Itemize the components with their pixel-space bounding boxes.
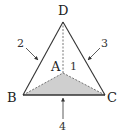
label-1: 1 xyxy=(70,60,77,73)
label-4: 4 xyxy=(59,120,66,133)
arrow-3-icon xyxy=(88,48,100,60)
label-3: 3 xyxy=(101,37,108,50)
arrow-2-icon xyxy=(26,48,38,60)
label-2: 2 xyxy=(17,37,24,50)
vertex-label-d: D xyxy=(58,3,68,18)
vertex-label-c: C xyxy=(107,90,117,105)
tetrahedron-diagram: D A B C 1 2 3 4 xyxy=(0,0,124,139)
vertex-label-a: A xyxy=(50,59,61,74)
vertex-label-b: B xyxy=(7,90,17,105)
base-face-abc xyxy=(23,73,105,95)
